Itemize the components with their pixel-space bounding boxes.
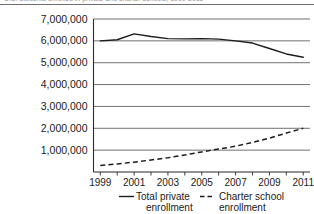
y-tick-label-2000000: 2,000,000 xyxy=(41,122,88,134)
series-line-total-private-enrollment xyxy=(100,34,303,57)
x-tick-label-1999: 1999 xyxy=(89,177,112,188)
y-tick-label-5000000: 5,000,000 xyxy=(41,56,88,68)
y-tick-label-7000000: 7,000,000 xyxy=(41,13,88,25)
legend-label-0-line1: Total private xyxy=(136,191,190,202)
series-line-charter-school-enrollment xyxy=(100,128,303,165)
x-tick-label-2003: 2003 xyxy=(157,177,180,188)
legend-label-1-line1: Charter school xyxy=(219,191,284,202)
x-axis-labels-group: 1999200120032005200720092011 xyxy=(89,177,314,188)
y-axis-labels-group: 1,000,0002,000,0003,000,0004,000,0005,00… xyxy=(41,13,88,156)
legend-label-0-line2: enrollment xyxy=(146,202,193,213)
x-tick-label-2007: 2007 xyxy=(224,177,247,188)
y-tick-label-1000000: 1,000,000 xyxy=(41,144,88,156)
x-tick-label-2005: 2005 xyxy=(191,177,214,188)
chart-legend: Total private enrollment Charter school … xyxy=(119,191,284,213)
y-tick-label-4000000: 4,000,000 xyxy=(41,78,88,90)
figure-caption: U.S. students enrolled in private and ch… xyxy=(4,0,310,3)
y-tick-label-6000000: 6,000,000 xyxy=(41,34,88,46)
line-chart: 1,000,0002,000,0003,000,0004,000,0005,00… xyxy=(0,5,314,214)
x-tick-label-2011: 2011 xyxy=(292,177,314,188)
x-tick-label-2001: 2001 xyxy=(123,177,146,188)
y-tick-label-3000000: 3,000,000 xyxy=(41,100,88,112)
legend-label-1-line2: enrollment xyxy=(219,202,266,213)
chart-figure: U.S. students enrolled in private and ch… xyxy=(0,0,314,214)
x-tick-label-2009: 2009 xyxy=(258,177,281,188)
